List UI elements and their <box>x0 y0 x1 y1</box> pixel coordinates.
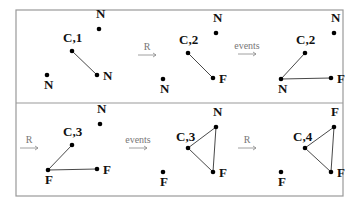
transition-label: R <box>244 134 251 145</box>
node-label: N <box>44 77 54 92</box>
graph-node <box>329 170 334 175</box>
node-label: F <box>219 165 227 180</box>
transition-label: events <box>125 134 151 145</box>
node-label: F <box>331 104 339 119</box>
node-label: C,4 <box>293 129 313 144</box>
graph-edge <box>331 127 334 172</box>
node-label: N <box>97 101 107 116</box>
transition-label: R <box>26 134 33 145</box>
graph-node <box>332 125 337 130</box>
node-label: C,3 <box>63 124 83 139</box>
graph-edge <box>188 53 213 78</box>
graph-node <box>214 31 219 36</box>
graph-node <box>211 170 216 175</box>
graph-node <box>211 76 216 81</box>
node-label: F <box>337 71 345 86</box>
transition-arrow: R <box>238 134 256 150</box>
graph-node <box>329 76 334 81</box>
node-label: F <box>278 174 286 189</box>
graph-state-3: C,2NFN <box>278 10 345 96</box>
transition-arrow: R <box>20 134 38 150</box>
state-transition-diagram: ReventsReventsR C,1NNNC,2NFNC,2NFNC,3NFF… <box>0 0 359 206</box>
node-label: F <box>219 71 227 86</box>
graph-node <box>98 122 103 127</box>
node-label: F <box>337 165 345 180</box>
node-label: N <box>103 68 113 83</box>
transition-arrow: R <box>138 41 156 57</box>
graph-state-2: C,2NFN <box>160 10 227 96</box>
graph-node <box>70 143 75 148</box>
node-label: N <box>213 104 223 119</box>
node-label: C,1 <box>63 30 82 45</box>
node-label: N <box>96 6 106 21</box>
node-label: F <box>160 174 168 189</box>
node-label: N <box>278 81 288 96</box>
transition-arrow: events <box>234 40 260 56</box>
graph-edge <box>48 145 72 170</box>
node-label: C,2 <box>296 32 315 47</box>
graph-node <box>186 51 191 56</box>
graph-edge <box>305 148 331 172</box>
graph-state-1: C,1NNN <box>44 6 113 92</box>
graph-edge <box>213 127 216 172</box>
graph-node <box>186 146 191 151</box>
graph-state-6: C,4FFF <box>278 104 345 189</box>
node-label: N <box>160 81 170 96</box>
graph-edge <box>72 51 97 75</box>
graph-node <box>95 167 100 172</box>
transition-arrow: events <box>125 134 151 150</box>
graph-node <box>95 73 100 78</box>
graph-edge <box>281 78 331 79</box>
graph-edge <box>188 148 213 172</box>
graph-node <box>303 51 308 56</box>
node-label: F <box>45 172 53 187</box>
graph-state-5: C,3NFF <box>160 104 227 189</box>
graph-node <box>214 125 219 130</box>
node-label: C,2 <box>179 32 198 47</box>
transition-label: R <box>144 41 151 52</box>
graph-edge <box>281 53 305 79</box>
node-label: C,3 <box>176 129 196 144</box>
node-label: N <box>331 10 341 25</box>
graph-node <box>303 146 308 151</box>
node-label: F <box>103 162 111 177</box>
graph-states: C,1NNNC,2NFNC,2NFNC,3NFFC,3NFFC,4FFF <box>44 6 345 189</box>
transition-arrows: ReventsReventsR <box>20 40 260 150</box>
graph-node <box>97 27 102 32</box>
graph-node <box>70 49 75 54</box>
graph-edge <box>48 169 97 170</box>
graph-node <box>332 31 337 36</box>
transition-label: events <box>234 40 260 51</box>
node-label: N <box>213 10 223 25</box>
graph-state-4: C,3NFF <box>45 101 111 187</box>
